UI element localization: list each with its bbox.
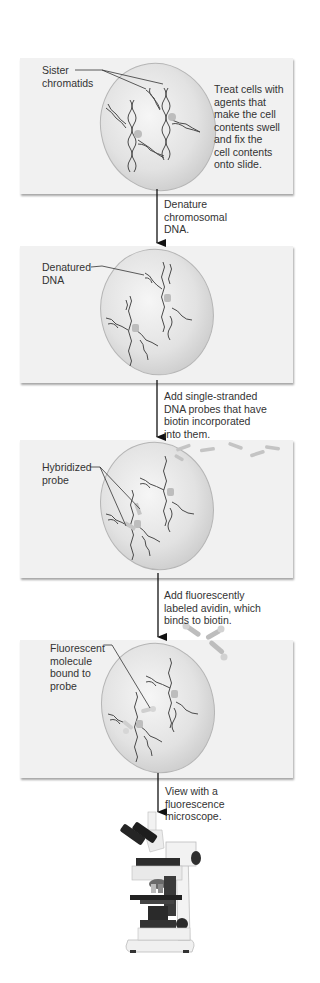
step-add-probes-text: Add single-stranded DNA probes that have…: [164, 390, 267, 440]
label-hybridized-probe: Hybridized probe: [42, 461, 92, 486]
panel-1-description: Treat cells with agents that make the ce…: [214, 83, 284, 171]
step-view-microscope-text: View with a fluorescence microscope.: [165, 785, 225, 823]
cell-2: [89, 239, 225, 386]
step-add-avidin-text: Add fluorescently labeled avidin, which …: [164, 589, 261, 627]
cell-4: [90, 633, 227, 783]
label-sister-chromatids: Sister chromatids: [42, 64, 93, 89]
step-denature-text: Denature chromosomal DNA.: [164, 198, 227, 236]
cell-1: [86, 50, 229, 203]
fluorescence-microscope-icon: [119, 812, 201, 953]
cell-3: [89, 432, 225, 580]
label-denatured-dna: Denatured DNA: [42, 261, 91, 286]
fluorescent-avidin-icon: [183, 623, 228, 661]
label-fluorescent-molecule: Fluorescent molecule bound to probe: [50, 642, 105, 692]
